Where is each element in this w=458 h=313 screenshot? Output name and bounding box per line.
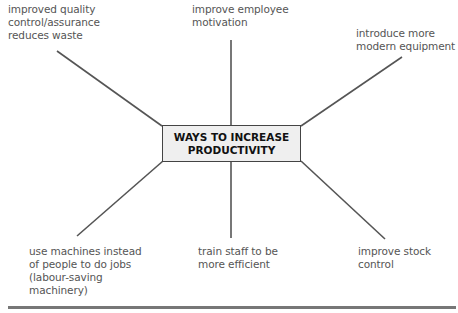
text-line: train staff to be [198,245,278,258]
text-line: improved quality [8,3,100,16]
text-line: reduces waste [8,29,100,42]
branch-stock-control: improve stock control [358,245,431,271]
text-line: (labour-saving [29,271,142,284]
text-line: motivation [192,16,289,29]
text-line: more efficient [198,258,278,271]
text-line: machinery) [29,284,142,297]
text-line: control/assurance [8,16,100,29]
mind-map: WAYS TO INCREASE PRODUCTIVITY improved q… [0,0,458,313]
text-line: modern equipment [356,40,455,53]
central-topic-box: WAYS TO INCREASE PRODUCTIVITY [162,125,301,162]
branch-labour-saving-machinery: use machines instead of people to do job… [29,245,142,297]
text-line: improve employee [192,3,289,16]
text-line: control [358,258,431,271]
branch-quality-control: improved quality control/assurance reduc… [8,3,100,42]
central-topic-line-2: PRODUCTIVITY [174,144,289,157]
text-line: improve stock [358,245,431,258]
text-line: of people to do jobs [29,258,142,271]
branch-train-staff: train staff to be more efficient [198,245,278,271]
branch-modern-equipment: introduce more modern equipment [356,27,455,53]
text-line: introduce more [356,27,455,40]
branch-employee-motivation: improve employee motivation [192,3,289,29]
bottom-divider [8,306,456,309]
central-topic-line-1: WAYS TO INCREASE [174,131,289,144]
text-line: use machines instead [29,245,142,258]
